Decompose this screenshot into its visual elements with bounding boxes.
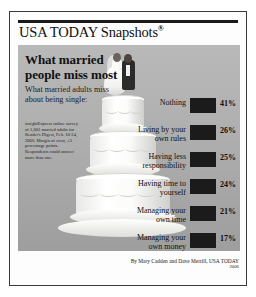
bar-chart: Nothing 41% Living by your own rules 26%… xyxy=(114,97,240,251)
page-title: USA TODAY Snapshots® xyxy=(19,24,239,41)
bar-label: Living by your own rules xyxy=(122,124,186,144)
bar-value: 41% xyxy=(220,97,240,108)
bar-label: Having time to yourself xyxy=(122,178,186,198)
bar-value: 24% xyxy=(220,178,240,189)
bar-label: Managing your own time xyxy=(122,205,186,225)
brand-name: USA TODAY Snapshots xyxy=(19,24,158,40)
bar-value: 26% xyxy=(220,124,240,135)
registered-trademark-icon: ® xyxy=(158,24,164,33)
bar-row: Nothing 41% xyxy=(114,97,240,124)
bar-row: Living by your own rules 26% xyxy=(114,124,240,151)
cake-tier-3-swag-a xyxy=(80,190,99,197)
bar-row: Having time to yourself 24% xyxy=(114,178,240,205)
bar-label: Nothing xyxy=(122,97,186,107)
bar-value: 25% xyxy=(220,151,240,162)
bar-row: Managing your own money 17% xyxy=(114,232,240,251)
bar-value: 17% xyxy=(220,232,240,243)
bar-swatch xyxy=(190,179,216,194)
source-note: insightExpress online survey of 1,001 ma… xyxy=(25,121,83,160)
bar-swatch xyxy=(190,98,216,113)
cake-tier-2-swag-a xyxy=(93,145,109,152)
snapshot-frame: USA TODAY Snapshots® xyxy=(9,11,247,286)
bar-swatch xyxy=(190,125,216,140)
credit-line: By Mary Cadden and Dave Merrill, USA TOD… xyxy=(18,258,239,271)
bar-value: 21% xyxy=(220,205,240,216)
bar-row: Managing your own time 21% xyxy=(114,205,240,232)
bar-swatch xyxy=(190,206,216,221)
header-divider-rule xyxy=(18,20,238,23)
bar-swatch xyxy=(190,233,216,248)
bar-label: Managing your own money xyxy=(122,232,186,251)
bar-swatch xyxy=(190,152,216,167)
headline: What married people miss most xyxy=(25,53,129,82)
bar-label: Having less responsibility xyxy=(122,151,186,171)
bar-row: Having less responsibility 25% xyxy=(114,151,240,178)
credit-year: 2006 xyxy=(18,264,239,270)
credit-byline: By Mary Cadden and Dave Merrill, USA TOD… xyxy=(131,258,239,264)
subheadline: What married adults miss about being sin… xyxy=(25,85,117,104)
illustration-panel: What married people miss most What marri… xyxy=(18,45,240,251)
